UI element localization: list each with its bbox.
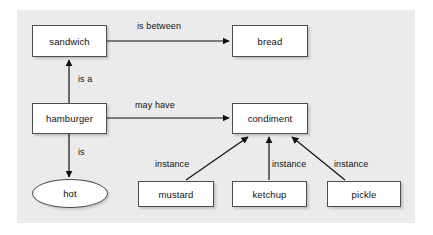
edge-label-is-a: is a (78, 74, 92, 84)
edge-mustard-condiment (186, 137, 248, 180)
node-ketchup-label: ketchup (253, 189, 287, 200)
node-bread[interactable]: bread (232, 25, 308, 57)
edge-label-instance-ketchup: instance (272, 159, 306, 169)
diagram-canvas: sandwich bread hamburger condiment hot m… (0, 0, 433, 235)
edge-label-may-have: may have (135, 100, 175, 110)
node-hamburger-label: hamburger (46, 113, 93, 124)
node-pickle[interactable]: pickle (327, 181, 401, 207)
node-sandwich-label: sandwich (49, 36, 89, 47)
node-condiment-label: condiment (248, 113, 293, 124)
edge-label-is: is (78, 147, 85, 157)
node-hamburger[interactable]: hamburger (32, 103, 107, 134)
node-bread-label: bread (258, 36, 283, 47)
node-ketchup[interactable]: ketchup (232, 181, 307, 207)
edge-label-instance-pickle: instance (334, 159, 368, 169)
node-hot-label: hot (63, 188, 77, 199)
node-mustard-label: mustard (158, 189, 193, 200)
edge-label-is-between: is between (137, 21, 181, 31)
edge-label-instance-mustard: instance (155, 159, 189, 169)
node-pickle-label: pickle (352, 189, 377, 200)
node-condiment[interactable]: condiment (232, 103, 308, 134)
node-sandwich[interactable]: sandwich (32, 25, 107, 57)
node-mustard[interactable]: mustard (138, 181, 214, 207)
node-hot[interactable]: hot (32, 179, 108, 208)
